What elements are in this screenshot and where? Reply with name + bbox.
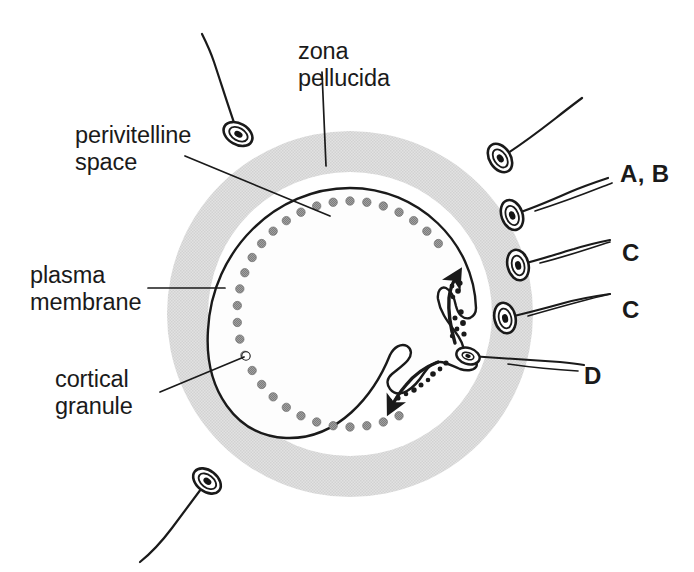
sperm-tail xyxy=(202,34,238,134)
sperm-tail xyxy=(500,98,582,158)
exocytosed-granule xyxy=(455,288,461,294)
exocytosed-granule xyxy=(419,383,424,388)
cortical-granule xyxy=(241,269,249,277)
exocytosed-granule xyxy=(461,331,466,336)
cortical-granule xyxy=(379,418,387,426)
leader-a-b xyxy=(535,183,612,211)
exocytosed-granule xyxy=(430,371,436,377)
cortical-granule xyxy=(269,393,277,401)
label-c-2: C xyxy=(622,296,640,323)
sperm-free-top-right xyxy=(483,98,582,177)
cortical-granule-highlighted xyxy=(242,352,250,360)
cortical-granule xyxy=(409,216,417,224)
cortical-granule xyxy=(257,380,265,388)
cortical-granule xyxy=(236,335,244,343)
leader-c-2 xyxy=(528,294,610,316)
exocytosed-granule xyxy=(460,320,466,326)
cortical-granule xyxy=(395,412,403,420)
sperm-head xyxy=(188,463,225,499)
cortical-granule xyxy=(379,202,387,210)
exocytosed-granule xyxy=(457,280,462,285)
exocytosed-granule xyxy=(455,327,460,332)
sperm-free-bottom-left xyxy=(140,463,226,562)
label-zona-pellucida: zona pellucida xyxy=(298,38,390,91)
exocytosed-granule xyxy=(426,378,431,383)
cortical-granule xyxy=(297,208,305,216)
label-cortical-granule: cortical granule xyxy=(55,366,133,419)
label-perivitelline-space: perivitelline space xyxy=(75,122,191,175)
cortical-granule xyxy=(297,412,305,420)
sperm-head xyxy=(219,117,256,151)
cortical-granule xyxy=(257,239,265,247)
sperm-tail xyxy=(518,240,610,265)
cortical-granule xyxy=(329,198,337,206)
exocytosed-granule xyxy=(438,367,443,372)
sperm-tail xyxy=(140,481,207,562)
leader-c-1 xyxy=(540,242,610,263)
label-plasma-membrane: plasma membrane xyxy=(30,262,142,315)
label-a-b: A, B xyxy=(620,160,670,187)
cortical-granule xyxy=(248,366,256,374)
sperm-tail xyxy=(512,178,608,215)
cortical-granule xyxy=(423,227,431,235)
exocytosed-granule xyxy=(388,399,393,404)
cortical-granule xyxy=(395,208,403,216)
cortical-granule xyxy=(312,418,320,426)
cortical-granule xyxy=(269,227,277,235)
exocytosed-granule xyxy=(411,387,416,392)
cortical-granule xyxy=(248,253,256,261)
sperm-free-top-left xyxy=(202,34,257,151)
cortical-granule xyxy=(282,403,290,411)
cortical-granule xyxy=(363,422,371,430)
exocytosed-granule xyxy=(453,316,458,321)
exocytosed-granule xyxy=(443,360,448,365)
exocytosed-granule xyxy=(451,295,456,300)
cortical-granule xyxy=(282,216,290,224)
cortical-granule xyxy=(434,239,442,247)
cortical-granule xyxy=(233,301,241,309)
cortical-granule xyxy=(236,285,244,293)
cortical-granule xyxy=(363,198,371,206)
cortical-granule xyxy=(233,318,241,326)
sperm-head xyxy=(483,139,517,176)
label-d: D xyxy=(584,362,602,389)
label-c-1: C xyxy=(622,239,640,266)
exocytosed-granule xyxy=(458,309,463,314)
cortical-granule xyxy=(346,423,354,431)
cortical-granule xyxy=(346,197,354,205)
figure-canvas: zona pellucidaperivitelline spaceplasma … xyxy=(0,0,694,572)
exocytosed-granule xyxy=(404,392,409,397)
cortical-granule xyxy=(329,422,337,430)
